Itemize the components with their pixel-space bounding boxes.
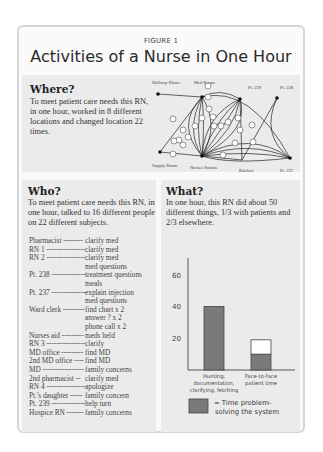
activity-bar-chart: 204060Hunting,documentation,clarifying, … (161, 180, 300, 432)
conversation-person (29, 314, 85, 323)
conversation-person: RN 4 ----------------- (29, 383, 85, 392)
conversation-person: 2nd MD office ---- (29, 357, 85, 366)
label-nurses-station: Nurses Station (190, 165, 218, 170)
figure-frame: FIGURE 1 Activities of a Nurse in One Ho… (17, 25, 305, 433)
where-panel: Where? To meet patient care needs this R… (22, 75, 300, 172)
legend-label: solving the system (215, 408, 280, 416)
category-label: Hunting, (203, 373, 226, 380)
y-tick-label: 20 (172, 335, 181, 343)
label-med-room: Med Room (194, 80, 215, 85)
label-pt-239: Pt. 239 (248, 85, 262, 90)
conversation-person: MD office --------- (29, 349, 85, 358)
conversation-row: Hospice RN -------family concerns (29, 409, 159, 418)
conversation-person: Nurses aid --------- (29, 332, 85, 341)
who-heading: Who? (28, 185, 61, 197)
what-panel: What? In one hour, this RN did about 50 … (161, 180, 300, 432)
bar-segment (251, 354, 271, 370)
conversation-person (29, 280, 85, 289)
conversation-list: Pharmacist --------clarify medRN 1 -----… (29, 237, 159, 417)
category-label: clarifying, fetching (190, 387, 238, 394)
who-panel: Who? To meet patient care needs this RN,… (22, 180, 156, 432)
y-tick-label: 60 (172, 272, 181, 280)
category-label: documentation, (194, 380, 235, 386)
conversation-person: Pharmacist -------- (29, 237, 85, 246)
bar-segment (204, 306, 224, 370)
label-pt-237: Pt. 237 (280, 168, 294, 172)
figure-label: FIGURE 1 (19, 37, 303, 45)
category-label: patient time (245, 380, 277, 387)
conversation-person: RN 2 ----------------- (29, 254, 85, 263)
legend-label: = Time problem- (214, 399, 272, 407)
conversation-person: RN 3 ----------------- (29, 340, 85, 349)
where-heading: Where? (30, 83, 74, 95)
figure-title: Activities of a Nurse in One Hour (19, 47, 303, 66)
label-pt-238: Pt. 238 (280, 85, 294, 90)
where-description: To meet patient care needs this RN, in o… (30, 97, 150, 137)
who-description: To meet patient care needs this RN, in o… (28, 198, 156, 228)
conversation-person (29, 297, 85, 306)
conversation-person: Pt. 238 -------------- (29, 271, 85, 280)
conversation-person: 2nd pharmacist -- (29, 375, 85, 384)
bar-segment (251, 340, 271, 354)
label-supply-room: Supply Room (152, 163, 178, 168)
conversation-person: Pt.'s daughter ----- (29, 392, 85, 401)
category-label: Face-to-face (245, 373, 277, 379)
conversation-person: Pt. 239 -------------- (29, 400, 85, 409)
conversation-person: RN 1 ----------------- (29, 246, 85, 255)
legend-swatch (189, 399, 208, 413)
label-kitchen: Kitchen (239, 168, 254, 172)
y-tick-label: 40 (172, 303, 181, 311)
conversation-person: MD ----------------- (29, 366, 85, 375)
location-network-diagram: Hallway Phone Med Room Pt. 239 Pt. 238 S… (150, 75, 300, 172)
conversation-person: Pt. 237 -------------- (29, 289, 85, 298)
conversation-person (29, 323, 85, 332)
conversation-subject: family concerns (85, 409, 159, 418)
conversation-person: Ward clerk --------- (29, 306, 85, 315)
conversation-person (29, 263, 85, 272)
label-hallway-phone: Hallway Phone (152, 80, 180, 85)
conversation-person: Hospice RN ------- (29, 409, 85, 418)
